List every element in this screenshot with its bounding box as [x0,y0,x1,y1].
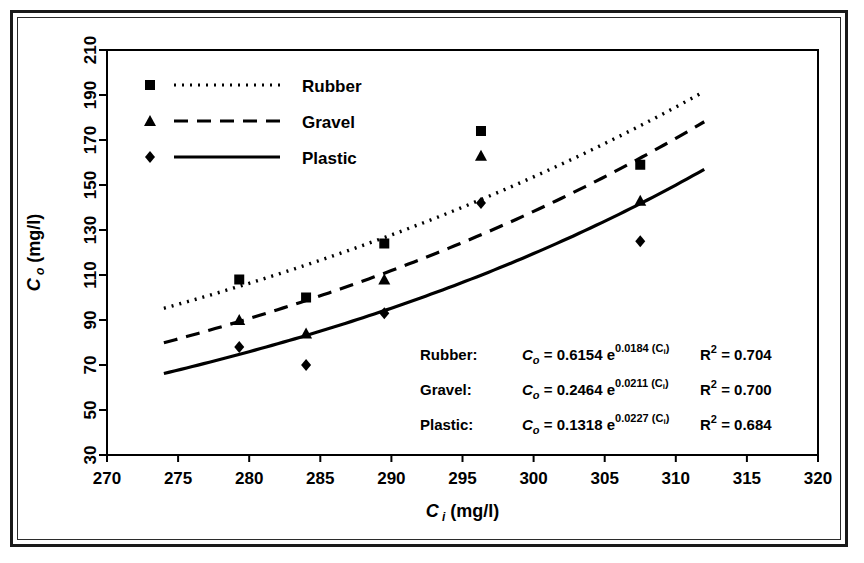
legend-label-rubber: Rubber [302,77,362,96]
data-point-rubber [301,293,311,303]
x-tick-label: 295 [448,469,476,488]
y-tick-label: 150 [81,171,100,199]
chart-svg: 2702752802852902953003053103153203050709… [0,0,864,563]
x-tick-label: 270 [93,469,121,488]
y-tick-label: 170 [81,126,100,154]
equation-r-squared: R2 = 0.704 [700,343,772,363]
legend-marker-plastic [145,151,155,163]
x-tick-label: 300 [519,469,547,488]
data-point-plastic [301,359,311,371]
data-point-rubber [476,126,486,136]
data-point-gravel [475,150,487,161]
legend-marker-rubber [145,80,155,90]
y-axis-title: C o (mg/l) [24,214,47,292]
legend-label-gravel: Gravel [302,113,355,132]
x-tick-label: 290 [377,469,405,488]
y-tick-label: 30 [81,446,100,465]
x-axis-title: C i (mg/l) [426,501,500,524]
x-tick-label: 310 [662,469,690,488]
chart-root: 2702752802852902953003053103153203050709… [0,0,864,563]
equation-series-name: Rubber: [420,346,478,363]
equation-r-squared: R2 = 0.684 [700,413,772,433]
legend-label-plastic: Plastic [302,149,357,168]
y-tick-label: 50 [81,401,100,420]
equation-expression: Co = 0.6154 e0.0184 (Ci) [522,342,670,366]
y-tick-label: 210 [81,36,100,64]
y-tick-label: 130 [81,216,100,244]
y-tick-label: 70 [81,356,100,375]
equation-series-name: Gravel: [420,381,472,398]
x-tick-label: 315 [733,469,761,488]
y-tick-label: 90 [81,311,100,330]
y-tick-label: 190 [81,81,100,109]
data-point-plastic [476,197,486,209]
equation-expression: Co = 0.1318 e0.0227 (Ci) [522,412,670,436]
fit-curve-rubber [164,91,704,308]
data-point-rubber [379,239,389,249]
x-tick-label: 305 [591,469,619,488]
data-point-rubber [635,160,645,170]
data-point-plastic [635,235,645,247]
fit-curve-gravel [164,122,704,343]
equation-r-squared: R2 = 0.700 [700,378,772,398]
y-tick-label: 110 [81,261,100,288]
x-tick-label: 280 [235,469,263,488]
data-point-rubber [234,275,244,285]
equation-expression: Co = 0.2464 e0.0211 (Ci) [522,377,669,401]
data-point-plastic [234,341,244,353]
equation-series-name: Plastic: [420,416,473,433]
x-tick-label: 285 [306,469,334,488]
legend-marker-gravel [144,115,156,126]
data-point-gravel [378,274,390,285]
x-tick-label: 275 [164,469,192,488]
x-tick-label: 320 [804,469,832,488]
